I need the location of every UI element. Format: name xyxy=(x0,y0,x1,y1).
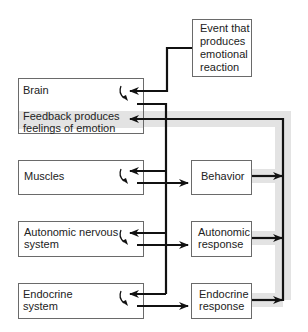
curved-arrow-ans-icon xyxy=(120,230,124,242)
curved-arrow-endocrine-icon xyxy=(120,291,124,303)
curved-arrow-muscles-icon xyxy=(120,169,124,181)
arrow-feedback-to-brain xyxy=(130,119,283,301)
curved-arrow-brain-icon xyxy=(120,86,124,98)
diagram-canvas: Event that produces emotional reaction B… xyxy=(0,0,308,332)
arrow-event-to-brain xyxy=(130,48,192,91)
connector-lines xyxy=(0,0,308,332)
brain-output-trunk xyxy=(137,104,166,294)
